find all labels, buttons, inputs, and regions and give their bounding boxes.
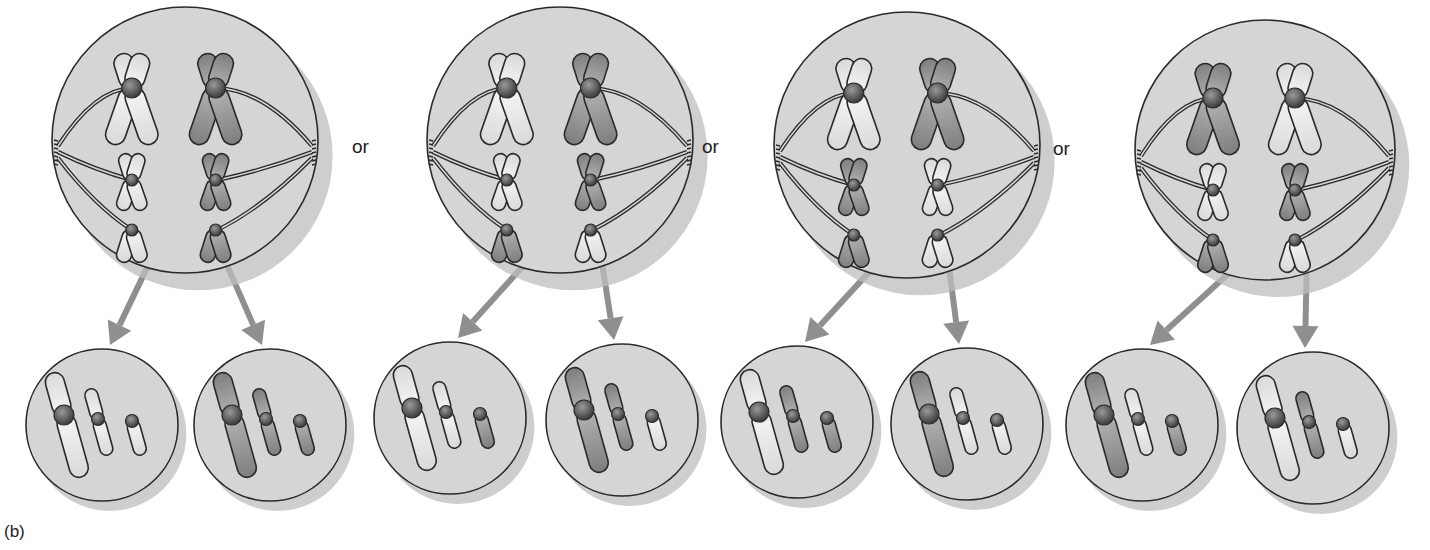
division-arrow-icon — [805, 271, 870, 342]
parent-cell-metaphase — [427, 7, 708, 290]
centromere-icon — [848, 229, 860, 241]
centromere-icon — [402, 398, 422, 418]
or-separator-2: or — [702, 136, 719, 158]
centromere-icon — [1265, 408, 1285, 428]
centromere-icon — [1337, 418, 1350, 431]
centromere-icon — [1166, 415, 1179, 428]
centromere-icon — [210, 224, 222, 236]
centromere-icon — [501, 174, 513, 186]
centromere-icon — [581, 78, 601, 98]
centromere-icon — [919, 404, 939, 424]
division-arrow-icon — [108, 266, 148, 345]
centromere-icon — [612, 408, 625, 421]
centromere-icon — [928, 83, 948, 103]
centromere-icon — [126, 224, 138, 236]
daughter-cell-1 — [26, 349, 186, 511]
centromere-icon — [1207, 184, 1219, 196]
centromere-icon — [848, 179, 860, 191]
daughter-cell-2 — [546, 344, 706, 506]
scenario-3 — [721, 12, 1055, 510]
division-arrow-icon — [1150, 274, 1229, 346]
centromere-icon — [92, 413, 105, 426]
centromere-icon — [206, 78, 226, 98]
scenario-1 — [26, 7, 354, 511]
centromere-icon — [1132, 413, 1145, 426]
parent-cell-metaphase — [52, 7, 333, 290]
parent-cell-metaphase — [1135, 20, 1409, 297]
daughter-cell-2 — [194, 349, 354, 511]
centromere-icon — [1285, 88, 1305, 108]
centromere-icon — [294, 415, 307, 428]
centromere-icon — [54, 405, 74, 425]
centromere-icon — [821, 412, 834, 425]
daughter-cell-1 — [1066, 349, 1226, 511]
centromere-icon — [844, 83, 864, 103]
meiosis-independent-assortment-diagram — [0, 0, 1430, 550]
centromere-icon — [991, 414, 1004, 427]
centromere-icon — [1289, 184, 1301, 196]
centromere-icon — [585, 174, 597, 186]
daughter-cell-2 — [1237, 352, 1397, 514]
centromere-icon — [932, 179, 944, 191]
centromere-icon — [501, 224, 513, 236]
centromere-icon — [1094, 405, 1114, 425]
centromere-icon — [474, 408, 487, 421]
division-arrow-icon — [458, 266, 523, 338]
centromere-icon — [126, 415, 139, 428]
centromere-icon — [440, 406, 453, 419]
or-separator-1: or — [352, 136, 369, 158]
centromere-icon — [957, 412, 970, 425]
centromere-icon — [749, 402, 769, 422]
centromere-icon — [126, 174, 138, 186]
centromere-icon — [222, 405, 242, 425]
centromere-icon — [210, 174, 222, 186]
daughter-cell-2 — [891, 348, 1051, 510]
parent-cell-metaphase — [774, 12, 1055, 295]
centromere-icon — [1289, 234, 1301, 246]
centromere-icon — [497, 78, 517, 98]
centromere-icon — [1207, 234, 1219, 246]
centromere-icon — [646, 410, 659, 423]
daughter-cell-1 — [721, 346, 881, 508]
daughter-cell-1 — [374, 342, 534, 504]
centromere-icon — [122, 78, 142, 98]
scenario-2 — [374, 7, 708, 506]
centromere-icon — [1203, 88, 1223, 108]
scenario-4 — [1066, 20, 1409, 514]
centromere-icon — [787, 410, 800, 423]
centromere-icon — [574, 400, 594, 420]
or-separator-3: or — [1053, 138, 1070, 160]
centromere-icon — [260, 413, 273, 426]
panel-label: (b) — [4, 522, 25, 542]
centromere-icon — [932, 229, 944, 241]
centromere-icon — [1303, 416, 1316, 429]
centromere-icon — [585, 224, 597, 236]
